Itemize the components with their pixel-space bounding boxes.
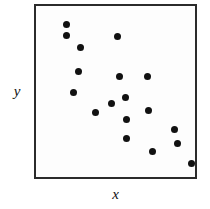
data-point (63, 32, 70, 39)
data-point (63, 21, 70, 28)
data-point (92, 109, 99, 116)
y-axis-label: y (8, 82, 26, 100)
data-point (144, 73, 151, 80)
data-point (108, 100, 115, 107)
data-point (122, 94, 129, 101)
data-point (174, 140, 181, 147)
data-point (149, 148, 156, 155)
data-point (77, 44, 84, 51)
scatter-plot-figure: y x (0, 0, 210, 209)
x-axis-label: x (34, 185, 197, 203)
data-point (171, 126, 178, 133)
data-points-layer (36, 6, 195, 177)
data-point (123, 135, 130, 142)
data-point (145, 107, 152, 114)
data-point (116, 73, 123, 80)
data-point (114, 33, 121, 40)
data-point (188, 160, 195, 167)
data-point (75, 68, 82, 75)
data-point (123, 116, 130, 123)
plot-area-frame (34, 4, 197, 179)
data-point (70, 89, 77, 96)
